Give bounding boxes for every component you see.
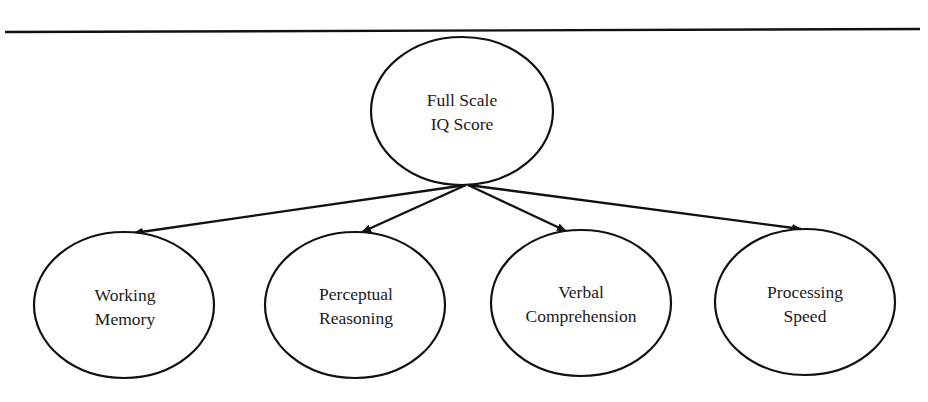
node-label-line2: Speed	[784, 306, 827, 326]
node-ellipse	[715, 229, 895, 375]
node-label-line2: Comprehension	[526, 306, 637, 326]
node-perceptual-reasoning: Perceptual Reasoning	[265, 232, 445, 378]
edge-fsiq-to-working-memory	[134, 185, 466, 233]
edge-fsiq-to-processing-speed	[468, 185, 801, 229]
node-ellipse	[265, 232, 445, 378]
node-full-scale-iq: Full Scale IQ Score	[371, 37, 553, 185]
node-label-line1: Processing	[767, 282, 843, 302]
node-label-line2: Reasoning	[319, 308, 393, 328]
node-processing-speed: Processing Speed	[715, 229, 895, 375]
node-label-line1: Working	[95, 285, 156, 305]
node-ellipse	[491, 230, 671, 376]
edges	[134, 185, 801, 233]
node-ellipse	[371, 37, 553, 185]
node-label-line2: Memory	[95, 309, 156, 329]
node-ellipse	[34, 232, 214, 378]
top-horizontal-rule	[5, 29, 920, 32]
node-verbal-comprehension: Verbal Comprehension	[491, 230, 671, 376]
node-label-line1: Perceptual	[319, 284, 393, 304]
iq-hierarchy-diagram: Full Scale IQ Score Working Memory Perce…	[0, 0, 928, 402]
node-label-line2: IQ Score	[431, 114, 494, 134]
node-label-line1: Verbal	[558, 282, 604, 302]
node-label-line1: Full Scale	[427, 90, 498, 110]
node-working-memory: Working Memory	[34, 232, 214, 378]
